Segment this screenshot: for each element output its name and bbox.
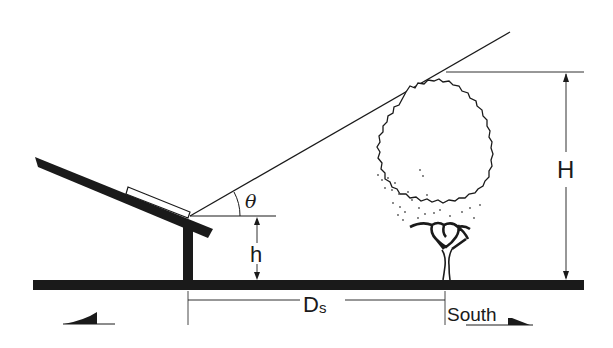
tree-canopy xyxy=(377,79,493,203)
mount-post xyxy=(183,222,193,285)
south-label: South xyxy=(447,304,497,325)
h-label: h xyxy=(250,242,262,267)
tilted-beam xyxy=(35,157,213,238)
tree xyxy=(377,79,493,280)
tree-trunk xyxy=(442,249,452,280)
ds-label-subscript: s xyxy=(319,299,327,316)
H-arrow-down-icon xyxy=(563,271,569,280)
h-arrow-down-icon xyxy=(254,272,260,280)
ds-label-main: D xyxy=(303,292,319,317)
h-arrow-up-icon xyxy=(254,217,260,225)
angle-label: θ xyxy=(245,190,257,212)
north-arrow-wedge-icon xyxy=(64,312,97,324)
tree-branches xyxy=(410,223,470,249)
ds-label: Ds xyxy=(303,292,326,317)
angle-arc xyxy=(234,192,240,216)
H-arrow-up-icon xyxy=(563,73,569,82)
shading-diagram: θ h H Ds South xyxy=(0,0,613,348)
south-arrow-wedge-icon xyxy=(508,318,530,325)
H-label: H xyxy=(557,156,574,183)
ground-line xyxy=(33,280,584,290)
